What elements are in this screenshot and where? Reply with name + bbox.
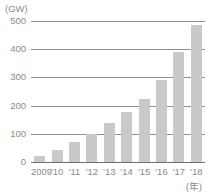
bar-11 <box>69 142 80 162</box>
y-tick-label: 400 <box>10 44 26 54</box>
bar-18 <box>191 25 202 162</box>
y-tick-label: 500 <box>10 16 26 26</box>
x-tick-label: '12 <box>83 166 100 177</box>
y-axis-unit-label: (GW) <box>5 3 28 14</box>
x-tick-label: '11 <box>66 166 83 177</box>
x-tick-label: '10 <box>48 166 65 177</box>
x-tick-label: '16 <box>153 166 170 177</box>
bar-12 <box>86 134 97 162</box>
y-tick-label: 100 <box>10 129 26 139</box>
x-tick-label: 2009 <box>31 166 48 177</box>
bar-17 <box>173 52 184 162</box>
y-tick-label: 200 <box>10 101 26 111</box>
x-axis-unit-label: (年) <box>186 179 202 193</box>
x-tick-label: '14 <box>118 166 135 177</box>
x-tick-label: '13 <box>101 166 118 177</box>
plot-area: 0100200300400500 <box>31 21 205 162</box>
bar-chart: (GW) 0100200300400500 2009'10'11'12'13'1… <box>0 0 208 193</box>
x-tick-label: '17 <box>170 166 187 177</box>
x-tick-label: '18 <box>188 166 205 177</box>
bar-14 <box>121 112 132 162</box>
bar-13 <box>104 123 115 162</box>
y-tick-label: 0 <box>21 157 26 167</box>
bar-16 <box>156 80 167 162</box>
x-axis-tick-labels: 2009'10'11'12'13'14'15'16'17'18 <box>31 166 205 180</box>
gridline-500 <box>31 21 205 22</box>
x-tick-label: '15 <box>135 166 152 177</box>
bar-15 <box>139 99 150 162</box>
gridline-400 <box>31 49 205 50</box>
bar-2009 <box>34 156 45 162</box>
y-tick-label: 300 <box>10 72 26 82</box>
bar-10 <box>52 150 63 162</box>
x-axis-line <box>31 162 205 163</box>
